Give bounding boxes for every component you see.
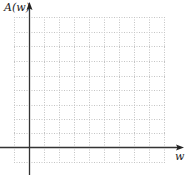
y-axis [27, 2, 33, 175]
y-axis-label: A(w) [3, 1, 30, 14]
grid [14, 17, 165, 163]
x-axis-label: w [175, 150, 185, 163]
x-axis [0, 145, 184, 151]
blank-coordinate-grid: A(w) w [0, 0, 187, 175]
